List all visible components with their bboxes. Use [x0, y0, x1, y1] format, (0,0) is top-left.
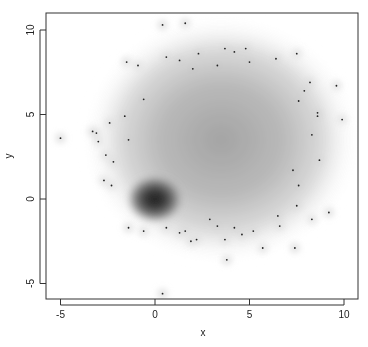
outlier-point — [196, 239, 198, 241]
chart-root: -50510 -50510 x y — [0, 0, 368, 347]
outlier-point — [226, 259, 228, 261]
outlier-point — [126, 61, 128, 63]
outlier-point — [165, 56, 167, 58]
outlier-point — [296, 205, 298, 207]
outlier-point — [311, 218, 313, 220]
x-axis-title: x — [201, 327, 206, 338]
outlier-point — [275, 58, 277, 60]
outlier-point — [143, 230, 145, 232]
outlier-point — [336, 85, 338, 87]
outlier-point — [241, 234, 243, 236]
density-plot: -50510 -50510 x y — [0, 0, 368, 347]
outlier-point — [97, 141, 99, 143]
outlier-point — [277, 215, 279, 217]
outlier-point — [328, 212, 330, 214]
y-axis-title: y — [3, 154, 14, 159]
outlier-point — [190, 240, 192, 242]
outlier-point — [105, 154, 107, 156]
y-tick-label: -5 — [25, 279, 36, 288]
outlier-point — [96, 132, 98, 134]
outlier-point — [279, 225, 281, 227]
outlier-point — [162, 24, 164, 26]
outlier-point — [319, 159, 321, 161]
y-tick-label: 0 — [25, 196, 36, 202]
outlier-point — [111, 185, 113, 187]
outlier-point — [143, 98, 145, 100]
outlier-point — [224, 239, 226, 241]
outlier-point — [249, 61, 251, 63]
outlier-point — [296, 53, 298, 55]
outlier-point — [165, 227, 167, 229]
outlier-point — [137, 65, 139, 67]
x-axis: -50510 — [56, 299, 350, 320]
outlier-point — [341, 119, 343, 121]
outlier-point — [224, 48, 226, 50]
outlier-point — [292, 169, 294, 171]
outlier-point — [245, 48, 247, 50]
diffuse-cloud — [84, 17, 359, 263]
y-tick-label: 5 — [25, 111, 36, 117]
outlier-point — [60, 137, 62, 139]
outlier-point — [179, 232, 181, 234]
outlier-point — [303, 90, 305, 92]
outlier-point — [233, 227, 235, 229]
outlier-point — [317, 115, 319, 117]
outlier-point — [216, 225, 218, 227]
outlier-point — [184, 230, 186, 232]
y-axis: -50510 — [25, 24, 46, 288]
outlier-point — [309, 81, 311, 83]
y-tick-label: 10 — [25, 24, 36, 36]
outlier-point — [294, 247, 296, 249]
outlier-point — [92, 131, 94, 133]
outlier-point — [103, 180, 105, 182]
outlier-point — [233, 51, 235, 53]
outlier-point — [124, 115, 126, 117]
outlier-point — [192, 68, 194, 70]
outlier-point — [317, 112, 319, 114]
outlier-point — [209, 218, 211, 220]
outlier-point — [113, 161, 115, 163]
outlier-point — [298, 185, 300, 187]
outlier-point — [311, 134, 313, 136]
outlier-point — [109, 122, 111, 124]
outlier-point — [252, 230, 254, 232]
dense-cluster — [126, 175, 184, 224]
outlier-point — [198, 53, 200, 55]
outlier-point — [179, 60, 181, 62]
x-tick-label: 10 — [338, 309, 350, 320]
outlier-point — [128, 139, 130, 141]
density-layer — [56, 17, 359, 299]
outlier-point — [162, 293, 164, 295]
x-tick-label: 0 — [152, 309, 158, 320]
outlier-point — [184, 22, 186, 24]
outlier-point — [298, 100, 300, 102]
outlier-point — [216, 65, 218, 67]
x-tick-label: 5 — [247, 309, 253, 320]
x-tick-label: -5 — [56, 309, 65, 320]
outlier-point — [262, 247, 264, 249]
outlier-point — [128, 227, 130, 229]
